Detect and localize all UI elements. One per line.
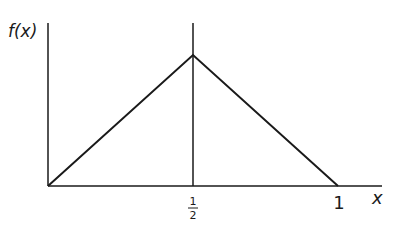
x-axis-label: x: [371, 187, 383, 208]
tick-half-denominator: 2: [190, 209, 197, 222]
y-axis-label: f(x): [8, 21, 37, 41]
triangular-distribution-chart: f(x) x 1 2 1: [0, 0, 399, 244]
tick-half-numerator: 1: [190, 195, 197, 208]
tick-one: 1: [333, 192, 344, 213]
